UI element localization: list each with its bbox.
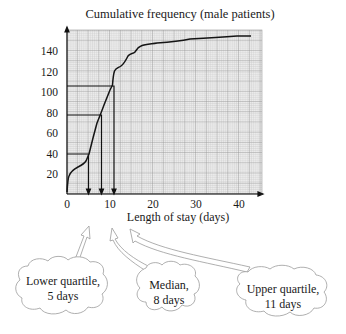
x-tick-0: 0 <box>55 198 79 210</box>
x-axis-label: Length of stay (days) <box>0 210 346 225</box>
median-label: Median, <box>138 278 200 293</box>
x-tick-20: 20 <box>141 198 165 210</box>
lower-quartile-label: Lower quartile, <box>18 274 108 289</box>
y-tick-40: 40 <box>30 148 58 160</box>
y-tick-80: 80 <box>30 107 58 119</box>
chart-title: Cumulative frequency (male patients) <box>0 7 346 22</box>
x-tick-30: 30 <box>184 198 208 210</box>
lower-quartile-value: 5 days <box>18 289 108 304</box>
median-value: 8 days <box>138 293 200 308</box>
y-tick-60: 60 <box>30 127 58 139</box>
upper-quartile-value: 11 days <box>236 297 330 312</box>
y-axis-arrow-icon <box>65 27 69 32</box>
y-tick-120: 120 <box>30 66 58 78</box>
lower-quartile-callout: Lower quartile, 5 days <box>18 274 108 304</box>
upper-quartile-label: Upper quartile, <box>236 282 330 297</box>
plot-grid <box>67 30 262 194</box>
y-tick-100: 100 <box>30 86 58 98</box>
upper-quartile-callout: Upper quartile, 11 days <box>236 282 330 312</box>
x-tick-40: 40 <box>227 198 251 210</box>
median-callout-arrow-icon <box>110 228 150 271</box>
x-tick-10: 10 <box>98 198 122 210</box>
y-tick-140: 140 <box>30 45 58 57</box>
y-tick-20: 20 <box>30 168 58 180</box>
median-callout: Median, 8 days <box>138 278 200 308</box>
